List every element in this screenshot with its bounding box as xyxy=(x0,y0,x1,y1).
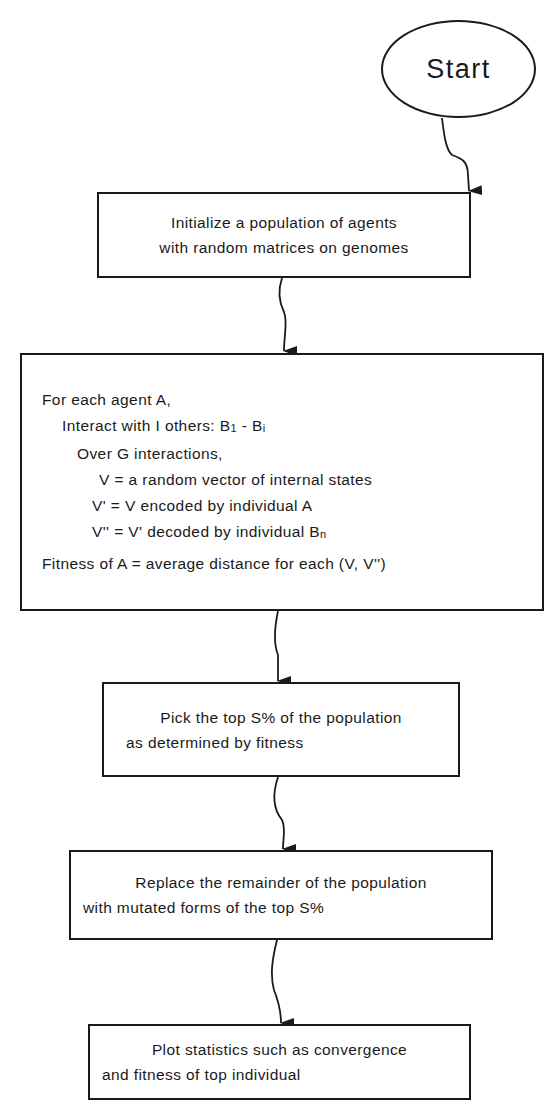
step-text: Plot statistics such as convergence xyxy=(152,1037,407,1062)
step-text: and fitness of top individual xyxy=(90,1062,301,1087)
step-text: with random matrices on genomes xyxy=(159,235,408,260)
step-text: as determined by fitness xyxy=(104,730,304,755)
start-terminal: Start xyxy=(381,20,536,118)
arrow-start-to-init xyxy=(442,118,469,191)
step-mutate-remainder: Replace the remainder of the population … xyxy=(69,850,493,940)
arrow-init-to-evaluate xyxy=(279,278,286,351)
step-text: Pick the top S% of the population xyxy=(160,705,402,730)
step-text: Interact with I others: B1 - Bi xyxy=(42,413,266,441)
step-text: V = a random vector of internal states xyxy=(42,467,372,493)
arrow-select-to-mutate xyxy=(275,777,285,849)
step-text: V'' = V' decoded by individual Bn xyxy=(42,519,327,547)
step-text: V' = V encoded by individual A xyxy=(42,493,312,519)
step-text: Replace the remainder of the population xyxy=(135,870,426,895)
step-text: with mutated forms of the top S% xyxy=(71,895,324,920)
step-text: Fitness of A = average distance for each… xyxy=(42,551,386,577)
step-select-top: Pick the top S% of the population as det… xyxy=(102,682,460,777)
step-text: Over G interactions, xyxy=(42,441,223,467)
step-text: Initialize a population of agents xyxy=(171,210,397,235)
step-initialize-population: Initialize a population of agents with r… xyxy=(97,192,471,278)
arrow-evaluate-to-select xyxy=(275,611,278,681)
step-evaluate-fitness: For each agent A, Interact with I others… xyxy=(20,353,544,611)
arrow-mutate-to-plot xyxy=(272,940,281,1023)
start-label: Start xyxy=(426,54,491,85)
step-text: For each agent A, xyxy=(42,387,171,413)
step-plot-statistics: Plot statistics such as convergence and … xyxy=(88,1024,471,1100)
